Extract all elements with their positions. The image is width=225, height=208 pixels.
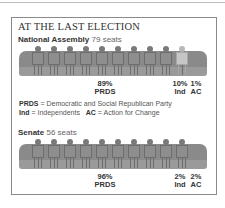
legend-ind-abbr: Ind [19,109,30,116]
prds-figure-icon [143,46,157,76]
house-name: National Assembly [18,35,89,44]
prds-figure-icon [95,139,109,169]
house-name: Senate [18,128,44,137]
legend-ac-abbr: AC [86,109,96,116]
national-assembly-heading: National Assembly 79 seats [18,35,122,44]
prds-figure-icon [159,46,173,76]
ac-label: 2% AC [189,173,203,189]
seat-count: 79 seats [92,35,122,44]
legend-line-ind-ac: Ind = Independents AC = Action for Chang… [19,109,160,116]
prds-figure-icon [111,46,125,76]
prds-figure-icon [127,46,141,76]
senate-heading: Senate 56 seats [18,128,77,137]
prds-party: PRDS [90,88,120,96]
ind-party: Ind [172,181,188,189]
prds-label: 89% PRDS [90,80,120,96]
prds-party: PRDS [90,181,120,189]
ac-party: AC [189,181,203,189]
legend-ac-text: = Action for Change [98,109,160,116]
prds-figure-icon [63,139,77,169]
prds-figure-icon [127,139,141,169]
legend-line-prds: PRDS = Democratic and Social Republican … [19,100,172,107]
prds-figure-icon [175,139,189,169]
prds-figure-icon [31,46,45,76]
prds-figure-icon [159,139,173,169]
prds-label: 96% PRDS [90,173,120,189]
ind-label: 2% Ind [172,173,188,189]
prds-figure-icon [63,46,77,76]
prds-figure-icon [79,139,93,169]
prds-figure-icon [47,139,61,169]
infographic-title: AT THE LAST ELECTION [18,21,140,32]
legend-prds-abbr: PRDS [19,100,38,107]
senate-bench [19,139,207,169]
ac-label: 1% AC [189,80,203,96]
ind-party: Ind [170,88,190,96]
prds-figure-icon [79,46,93,76]
independent-figure-icon [175,46,189,76]
prds-figure-icon [31,139,45,169]
prds-figure-icon [95,46,109,76]
top-divider [0,2,225,3]
prds-figure-icon [47,46,61,76]
ind-label: 10% Ind [170,80,190,96]
national-assembly-bench [19,46,207,76]
prds-figure-icon [143,139,157,169]
ac-party: AC [189,88,203,96]
seat-count: 56 seats [46,128,76,137]
legend-prds-text: = Democratic and Social Republican Party [40,100,171,107]
prds-figure-icon [111,139,125,169]
legend-ind-text: = Independents [31,109,79,116]
